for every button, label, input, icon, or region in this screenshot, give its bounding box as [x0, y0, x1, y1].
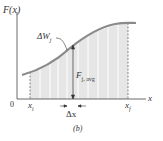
xf-label: xf [125, 101, 131, 112]
origin-label: 0 [10, 101, 14, 109]
xi-label-sub: i [32, 106, 34, 112]
delta-w-label: ΔWj [37, 32, 51, 43]
delta-w-leader [56, 38, 67, 50]
delta-w-main: ΔW [37, 31, 50, 41]
y-axis-label: F(x) [3, 5, 20, 15]
delta-x-arrows [60, 105, 86, 107]
delta-w-sub: j [50, 37, 52, 43]
figure-caption: (b) [73, 125, 82, 133]
xf-label-sub: f [129, 106, 131, 112]
f-avg-label: Fj, avg [76, 71, 95, 82]
delta-x-label: Δx [66, 110, 76, 119]
xi-label: xi [28, 101, 34, 112]
x-axis-label: x [148, 94, 152, 103]
f-avg-sub: j, avg [82, 76, 95, 82]
